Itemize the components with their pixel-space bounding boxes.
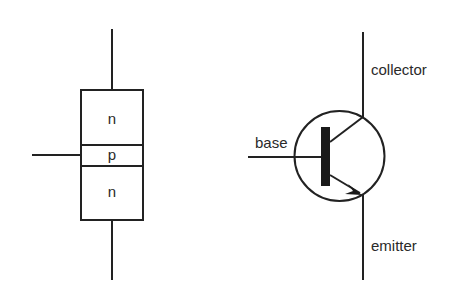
- region-label-top-n: n: [108, 110, 116, 127]
- base-bar: [321, 127, 330, 186]
- base-label: base: [255, 134, 288, 151]
- region-label-bottom-n: n: [108, 183, 116, 200]
- collector-diagonal: [330, 117, 363, 142]
- region-label-p: p: [108, 146, 116, 163]
- npn-transistor-diagram: n p n base collector emitter: [0, 0, 461, 300]
- collector-label: collector: [371, 61, 427, 78]
- npn-symbol: base collector emitter: [248, 32, 427, 280]
- emitter-label: emitter: [371, 237, 417, 254]
- npn-structure: n p n: [32, 29, 143, 280]
